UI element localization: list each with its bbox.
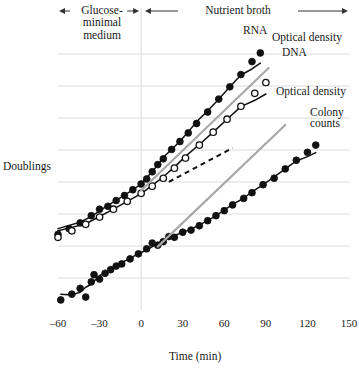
data-point-filled [282,165,289,172]
x-tick-label: 60 [202,318,246,330]
series-line-dashed [169,148,233,182]
x-tick-label: 150 [327,318,359,330]
optical-density-label-1: Optical density [272,31,342,43]
data-point-filled [154,161,161,168]
bracket-nutrient-arrow-right [342,8,348,14]
data-point-filled [193,120,200,127]
bracket-nutrient-line1: Nutrient broth [178,4,298,16]
data-point-filled [96,276,103,283]
data-point-filled [179,229,186,236]
series-line-solid [61,153,316,295]
series-line-solid [58,94,266,231]
colony-counts-label-2: counts [310,117,340,129]
data-point-filled [238,71,245,78]
data-point-filled [82,294,89,301]
data-point-open [110,206,116,212]
data-point-open [149,183,155,189]
dna-label: DNA [282,46,307,58]
data-point-filled [143,245,150,252]
bracket-glucose-line1: Glucose- [64,4,140,16]
x-axis-title: Time (min) [169,350,221,362]
data-point-filled [160,155,167,162]
data-point-filled [149,168,156,175]
data-point-filled [257,50,264,57]
data-point-open [83,221,89,227]
optical-density-label-2: Optical density [276,85,346,97]
y-axis-title: Doublings [3,160,51,172]
data-point-filled [57,297,64,304]
data-point-filled [188,227,195,234]
data-point-filled [168,146,175,153]
figure-container: Glucose- minimal medium Nutrient broth D… [0,0,359,370]
x-tick-label: 120 [285,318,329,330]
data-point-filled [113,197,120,204]
data-point-filled [293,157,300,164]
data-point-filled [204,217,211,224]
data-point-open [171,165,177,171]
data-point-filled [249,189,256,196]
data-point-filled [271,175,278,182]
data-point-filled [88,279,95,286]
data-point-filled [249,58,256,65]
data-point-open [252,90,258,96]
x-tick-label: 0 [119,318,163,330]
data-point-filled [226,83,233,90]
data-point-open [196,142,202,148]
data-point-open [238,103,244,109]
bracket-label-nutrient: Nutrient broth [178,4,298,16]
data-point-open [263,79,269,85]
data-point-open [96,214,102,220]
data-point-filled [304,149,311,156]
data-point-open [124,198,130,204]
x-tick-label: –30 [78,318,122,330]
data-point-open [160,175,166,181]
data-point-filled [118,261,125,268]
data-point-filled [171,234,178,241]
data-point-open [69,228,75,234]
data-point-filled [177,138,184,145]
data-point-open [182,155,188,161]
data-point-open [55,234,61,240]
data-point-filled [88,212,95,219]
data-point-filled [196,222,203,229]
data-point-filled [127,255,134,262]
data-point-filled [221,207,228,214]
bracket-glucose-line3: medium [64,29,140,41]
bracket-glucose-line2: minimal [64,16,140,28]
data-point-filled [138,181,145,188]
data-point-filled [215,96,222,103]
data-point-filled [260,181,267,188]
data-point-filled [240,195,247,202]
rna-label: RNA [243,24,267,36]
series-extrapolated-pre-shift-rate [169,148,233,182]
data-point-filled [185,129,192,136]
data-point-filled [68,291,75,298]
bracket-label-glucose: Glucose- minimal medium [64,4,140,41]
series-rna [55,50,264,238]
x-tick-label: –60 [36,318,80,330]
data-point-filled [96,206,103,213]
data-point-filled [135,250,142,257]
x-tick-label: 90 [244,318,288,330]
data-point-open [224,116,230,122]
data-point-filled [213,212,220,219]
data-point-filled [229,201,236,208]
data-point-filled [129,186,136,193]
data-point-filled [77,285,84,292]
data-point-filled [312,142,319,149]
data-point-filled [143,176,150,183]
data-point-filled [204,109,211,116]
data-point-open [210,129,216,135]
series-colony-counts [57,142,319,304]
x-tick-label: 30 [161,318,205,330]
